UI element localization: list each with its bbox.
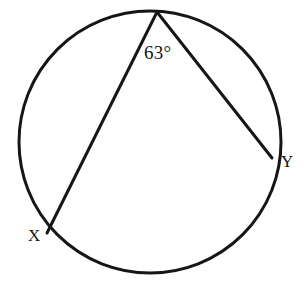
- vertex-label-y: Y: [281, 153, 293, 170]
- vertex-label-x: X: [28, 227, 40, 244]
- geometry-figure: 63° X Y: [0, 0, 306, 283]
- chord-apex-to-y: [157, 12, 272, 158]
- angle-measure-label: 63°: [144, 43, 171, 62]
